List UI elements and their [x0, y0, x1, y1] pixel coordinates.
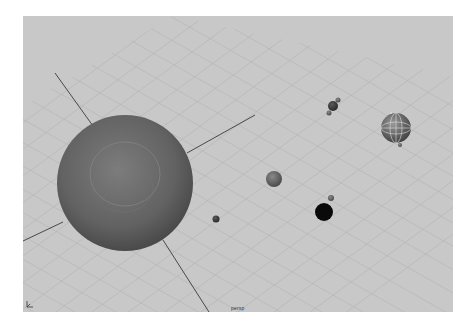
- sphere-small[interactable]: [213, 216, 220, 223]
- moon-black[interactable]: [328, 195, 334, 201]
- 3d-viewport[interactable]: persp: [23, 16, 453, 312]
- axis-gizmo-icon: [25, 299, 35, 309]
- sphere-sun[interactable]: [57, 115, 193, 251]
- sphere-mid[interactable]: [266, 171, 282, 187]
- sphere-black[interactable]: [315, 203, 333, 221]
- scene-canvas[interactable]: [23, 16, 453, 312]
- camera-label: persp: [231, 305, 245, 311]
- sphere-twin-group[interactable]: [327, 98, 341, 116]
- sphere-selected[interactable]: [381, 112, 411, 147]
